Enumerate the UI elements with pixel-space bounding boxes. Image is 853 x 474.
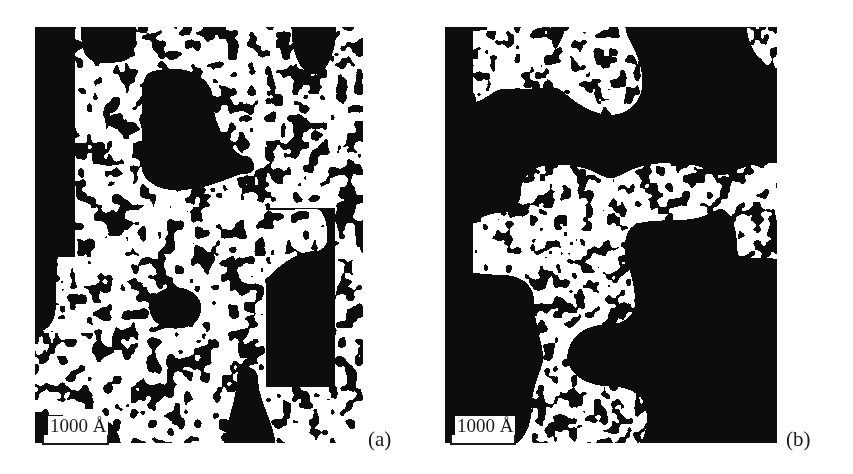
panel-label-b: (b)	[786, 429, 811, 450]
micrograph-panel-a	[35, 27, 363, 443]
panel-label-a: (a)	[368, 429, 391, 450]
microstructure-image-b	[445, 27, 777, 443]
scale-bar-label-b: 1000 Å	[455, 416, 515, 435]
microstructure-image-a	[35, 27, 363, 443]
scale-bar-label-a: 1000 Å	[48, 416, 108, 435]
micrograph-panel-b	[445, 27, 777, 443]
scale-bar-a	[42, 435, 109, 445]
scale-bar-b	[450, 435, 516, 445]
